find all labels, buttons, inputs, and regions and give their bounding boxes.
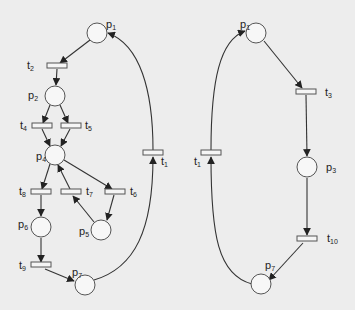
label-t7: t7 [86,185,93,198]
arc-p7-t1 [211,157,252,284]
transition-t2 [47,63,67,68]
label-t1: t1 [161,155,168,168]
arc-t6-p5 [107,195,114,220]
transition-t9 [31,262,51,267]
arc-t3-p3 [306,95,307,156]
right-net-nodes [201,23,317,294]
label-t5: t5 [85,119,92,132]
transition-t7 [61,189,81,194]
arc-t2-p2 [56,69,57,85]
place-p5 [91,220,111,240]
arc-p7-t1 [94,157,153,280]
label-p4: p4 [36,150,46,163]
arc-t7-p4 [58,165,70,189]
petri-net-diagram: p1 p2 p4 p6 p5 p7 t2 t4 t5 t8 t7 t6 t9 t… [0,0,355,310]
label-t3: t3 [325,86,332,99]
transition-t3 [296,89,316,94]
arc-t4-p4 [42,129,50,146]
arc-p1-t2 [60,40,90,63]
place-p2 [45,86,65,106]
transition-t5 [61,123,81,128]
place-p4 [45,145,65,165]
right-net-arcs [211,31,307,284]
label-t9: t9 [19,259,26,272]
arc-p5-t7 [73,196,94,222]
arc-p2-t4 [43,105,50,123]
label-p6: p6 [18,218,28,231]
label-p2: p2 [28,89,38,102]
label-p5: p5 [79,225,89,238]
label-t6: t6 [130,185,137,198]
diagram-svg: p1 p2 p4 p6 p5 p7 t2 t4 t5 t8 t7 t6 t9 t… [0,0,355,310]
label-t8: t8 [19,185,26,198]
arc-p1-t3 [264,41,302,88]
label-p1: p1 [106,18,116,31]
arc-p4-t8 [42,164,50,189]
place-p3 [297,157,317,177]
transition-t4 [32,123,52,128]
label-p7-right: p7 [265,259,275,272]
label-t1-right: t1 [194,155,201,168]
label-p1-right: p1 [240,18,250,31]
place-p7-right [251,274,271,294]
arc-t9-p7 [45,269,74,281]
transition-t10 [297,236,317,241]
arc-t1-p1 [211,31,245,150]
transition-t8 [31,189,51,194]
label-t2: t2 [27,59,34,72]
transition-t6 [105,189,125,194]
label-p7: p7 [72,266,82,279]
transition-t1 [143,150,163,155]
label-t10: t10 [327,232,338,245]
label-p3: p3 [326,161,336,174]
arc-t5-p4 [61,129,70,146]
label-t4: t4 [20,119,27,132]
arc-p2-t5 [60,105,68,123]
arc-t10-p7 [269,243,303,280]
arc-t1-p1 [108,33,153,150]
place-p1 [87,23,107,43]
transition-t1-right [201,150,221,155]
place-p6 [31,217,51,237]
